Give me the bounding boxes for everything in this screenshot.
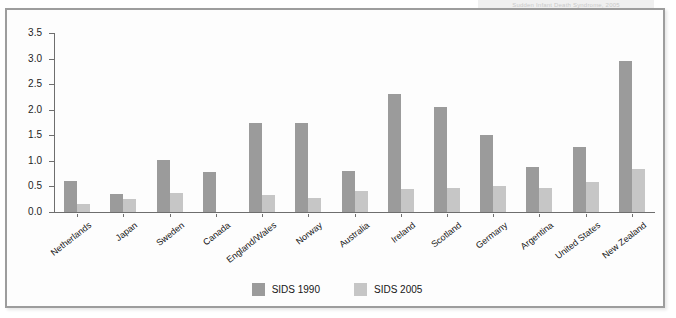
x-tick-mark [632,214,633,217]
bar-netherlands-2005 [77,204,90,212]
x-axis-label-norway: Norway [294,220,324,247]
bar-germany-1990 [480,135,493,212]
bar-argentina-2005 [539,188,552,212]
bar-norway-2005 [308,198,321,212]
bar-sweden-2005 [170,193,183,212]
legend-label: SIDS 1990 [272,284,320,295]
bar-new-zealand-2005 [632,169,645,212]
x-tick-mark [262,214,263,217]
x-tick-mark [308,214,309,217]
bar-australia-2005 [355,191,368,212]
x-axis-line [54,212,655,213]
x-tick-mark [493,214,494,217]
x-axis-label-germany: Germany [474,220,509,251]
x-axis-label-australia: Australia [337,220,371,249]
plot-area: 0.00.51.01.52.02.53.03.5 NetherlandsJapa… [7,10,667,310]
bar-england-wales-1990 [249,123,262,213]
legend-swatch-icon [252,283,265,296]
bar-germany-2005 [493,186,506,212]
y-tick-label: 1.0 [18,155,42,166]
y-tick-label: 0.0 [18,206,42,217]
chart-page: Sudden Infant Death Syndrome, 2005 0.00.… [0,0,676,318]
y-tick-mark [49,186,55,187]
bar-netherlands-1990 [64,181,77,212]
y-tick-label: 0.5 [18,180,42,191]
bar-ireland-2005 [401,189,414,212]
x-tick-mark [216,214,217,217]
x-tick-mark [170,214,171,217]
legend-item-1990[interactable]: SIDS 1990 [252,283,320,296]
chart-legend: SIDS 1990SIDS 2005 [7,280,667,298]
x-axis-label-england-wales: England/Wales [225,220,279,265]
x-axis-label-argentina: Argentina [519,220,556,252]
chart-frame: 0.00.51.01.52.02.53.03.5 NetherlandsJapa… [5,8,665,308]
legend-label: SIDS 2005 [374,284,422,295]
y-tick-mark [49,84,55,85]
bar-england-wales-2005 [262,195,275,212]
x-axis-label-scotland: Scotland [429,220,463,249]
y-tick-label: 1.5 [18,129,42,140]
bar-ireland-1990 [388,94,401,212]
x-axis-label-netherlands: Netherlands [49,220,93,258]
bar-scotland-2005 [447,188,460,212]
y-tick-label: 2.0 [18,104,42,115]
legend-item-2005[interactable]: SIDS 2005 [354,283,422,296]
x-axis-label-new-zealand: New Zealand [600,220,648,261]
bar-norway-1990 [295,123,308,213]
legend-swatch-icon [354,283,367,296]
bar-scotland-1990 [434,107,447,212]
y-tick-mark [49,33,55,34]
y-tick-mark [49,59,55,60]
x-tick-mark [539,214,540,217]
bar-japan-1990 [110,194,123,212]
x-tick-mark [586,214,587,217]
x-axis-label-japan: Japan [114,220,139,243]
bar-united-states-1990 [573,147,586,212]
y-tick-mark [49,161,55,162]
bar-australia-1990 [342,171,355,212]
bar-argentina-1990 [526,167,539,212]
bar-japan-2005 [123,199,136,212]
y-tick-label: 3.5 [18,27,42,38]
x-axis-label-ireland: Ireland [389,220,417,245]
x-axis-label-sweden: Sweden [154,220,186,248]
y-tick-label: 3.0 [18,53,42,64]
y-tick-mark [49,110,55,111]
y-tick-mark [49,135,55,136]
bar-united-states-2005 [586,182,599,212]
x-tick-mark [123,214,124,217]
x-axis-label-canada: Canada [201,220,232,247]
y-tick-label: 2.5 [18,78,42,89]
x-tick-mark [447,214,448,217]
y-axis-line [54,33,55,212]
x-tick-mark [77,214,78,217]
x-tick-mark [355,214,356,217]
bar-new-zealand-1990 [619,61,632,212]
x-axis-label-united-states: United States [553,220,602,261]
x-tick-mark [401,214,402,217]
bar-sweden-1990 [157,160,170,212]
bar-canada-1990 [203,172,216,212]
